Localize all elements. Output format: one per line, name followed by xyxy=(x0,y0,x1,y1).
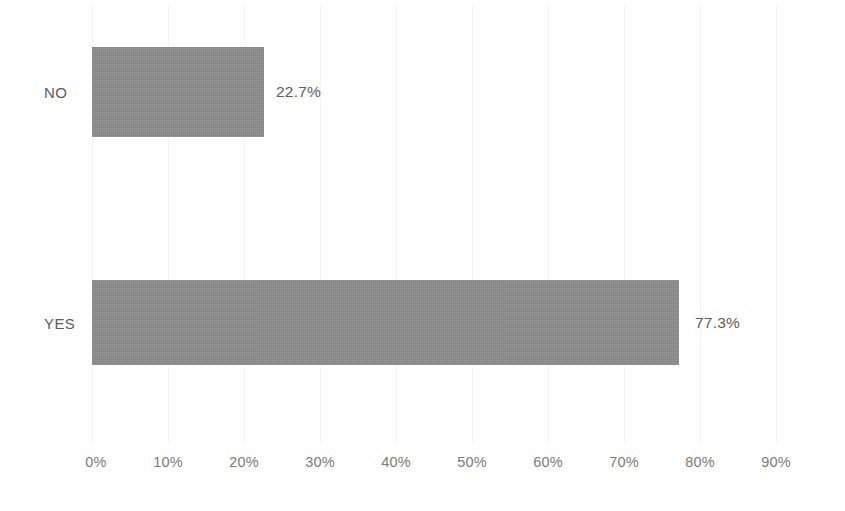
xtick-label-4: 40% xyxy=(381,454,411,470)
xtick-label-3: 30% xyxy=(305,454,335,470)
gridline-50 xyxy=(472,4,473,444)
gridline-90 xyxy=(776,4,777,444)
category-label-no: NO xyxy=(44,84,67,101)
bar-no[interactable] xyxy=(92,47,264,137)
xtick-label-7: 70% xyxy=(609,454,639,470)
gridline-60 xyxy=(548,4,549,444)
xtick-label-2: 20% xyxy=(229,454,259,470)
value-label-yes: 77.3% xyxy=(695,314,740,332)
value-label-no: 22.7% xyxy=(276,83,321,101)
xtick-label-0: 0% xyxy=(85,454,106,470)
xtick-label-8: 80% xyxy=(685,454,715,470)
gridline-80 xyxy=(700,4,701,444)
xtick-label-5: 50% xyxy=(457,454,487,470)
gridline-40 xyxy=(396,4,397,444)
gridline-70 xyxy=(624,4,625,444)
plot-area: NO 22.7% YES 77.3% 0% 10% 20% 30% 40% 50… xyxy=(0,0,845,511)
bar-chart: NO 22.7% YES 77.3% 0% 10% 20% 30% 40% 50… xyxy=(0,0,845,511)
xtick-label-9: 90% xyxy=(761,454,791,470)
category-label-yes: YES xyxy=(44,315,75,332)
bar-yes[interactable] xyxy=(92,280,679,365)
xtick-label-6: 60% xyxy=(533,454,563,470)
gridline-30 xyxy=(320,4,321,444)
xtick-label-1: 10% xyxy=(153,454,183,470)
